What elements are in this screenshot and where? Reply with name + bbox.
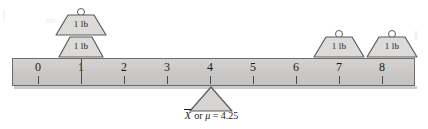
scan-speckle [3,10,5,21]
scale-number-0: 0 [29,60,47,74]
scale-number-8: 8 [373,60,391,74]
scale-number-2: 2 [115,60,133,74]
weight-body [58,36,104,58]
balance-beam-figure: 1 lb 1 lb 1 lb 1 lb 0 1 2 3 [0,0,428,129]
scan-speckle [46,19,55,23]
tick-1 [81,59,82,84]
tick-5 [253,76,254,84]
caption-value: = 4.25 [210,110,238,121]
tick-2 [124,76,125,84]
scale-number-3: 3 [158,60,176,74]
scale-number-6: 6 [287,60,305,74]
tick-0 [38,76,39,84]
weight-at-1-bottom[interactable]: 1 lb [58,36,104,58]
caption-xbar: X [184,110,192,121]
tick-8 [382,76,383,84]
scale-number-4: 4 [201,60,219,74]
weight-body [366,36,418,58]
weight-at-8[interactable]: 1 lb [366,30,418,58]
scale-number-7: 7 [330,60,348,74]
weight-body [313,36,365,58]
tick-3 [167,76,168,84]
weight-body [55,14,107,36]
tick-6 [296,76,297,84]
caption-or: or [192,110,205,121]
weight-at-1-top[interactable]: 1 lb [55,8,107,36]
scale-number-5: 5 [244,60,262,74]
fulcrum-triangle [189,86,233,112]
tick-7 [339,76,340,84]
tick-4 [210,76,211,84]
weight-at-7[interactable]: 1 lb [313,30,365,58]
fulcrum-caption: X or μ = 4.25 [131,110,291,122]
